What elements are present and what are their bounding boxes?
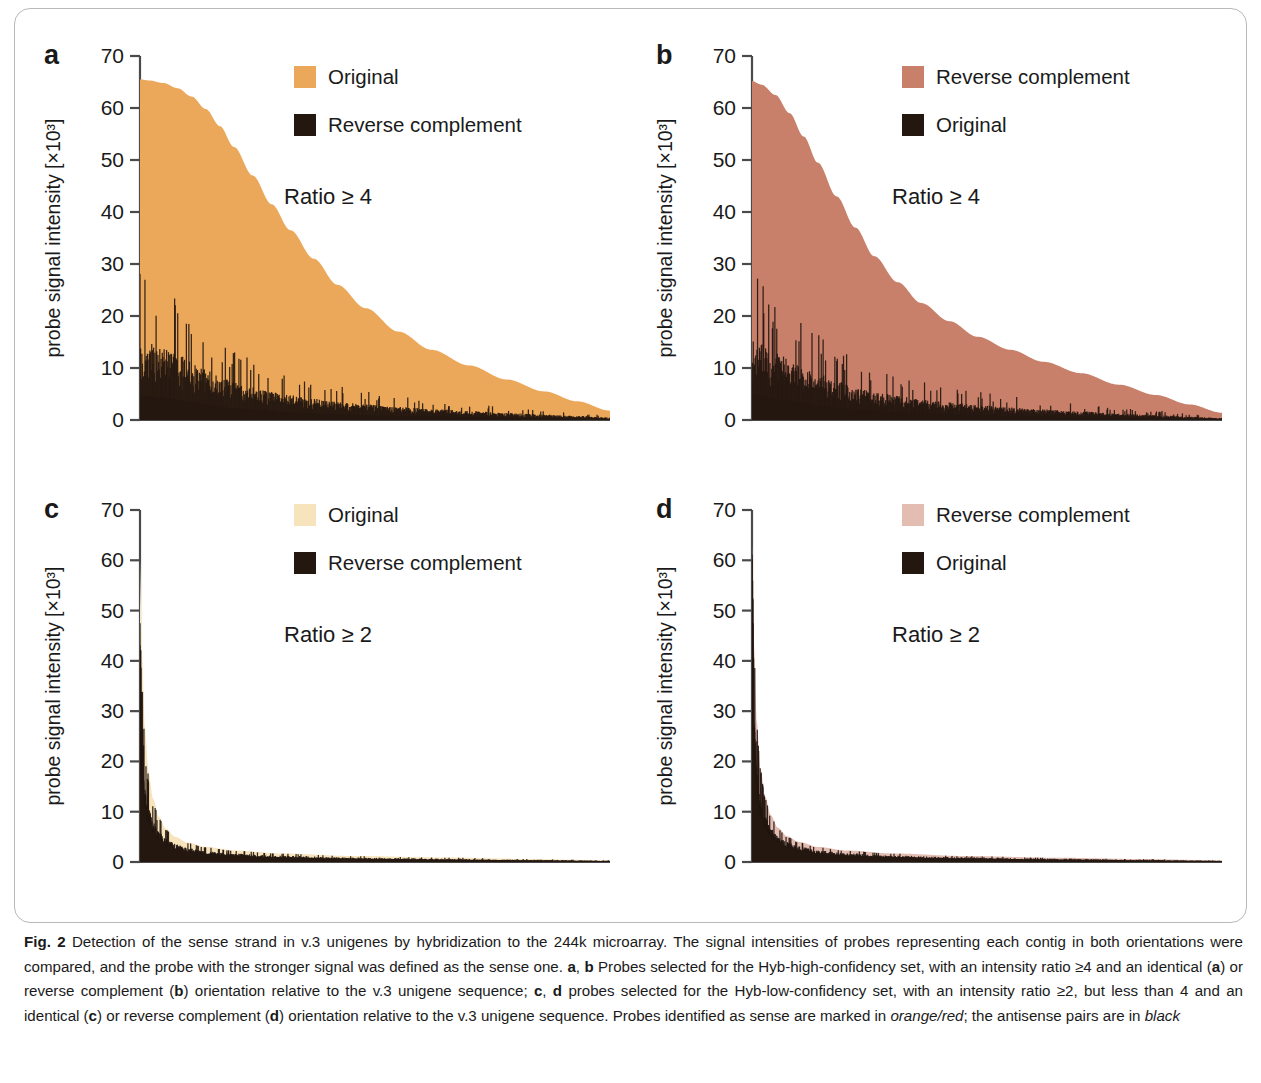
chart-b: bprobe signal intensity [×10³]0102030405… [634,16,1250,478]
y-tick-label-b-1: 10 [713,356,736,379]
chart-a: aprobe signal intensity [×10³]0102030405… [22,16,638,478]
legend-label-d-1: Original [936,551,1007,574]
y-tick-label-b-7: 70 [713,44,736,67]
legend-label-a-0: Original [328,65,399,88]
legend-swatch-d-0 [902,504,924,526]
ratio-annotation-c: Ratio ≥ 2 [284,622,372,647]
caption-segment: black [1145,1007,1180,1024]
y-tick-label-a-3: 30 [101,252,124,275]
panel-c: cprobe signal intensity [×10³]0102030405… [22,470,638,920]
plot-area-d [752,545,1222,862]
caption-segment: ) orientation relative to the v.3 unigen… [279,1007,890,1024]
ratio-annotation-a: Ratio ≥ 4 [284,184,372,209]
panel-letter-a: a [44,40,60,70]
y-axis-label-d: probe signal intensity [×10³] [654,566,676,805]
y-tick-label-a-7: 70 [101,44,124,67]
legend-label-a-1: Reverse complement [328,113,522,136]
caption-segment: d [270,1007,279,1024]
caption-segment: a [1212,958,1220,975]
series-sense-d [752,545,1222,862]
panel-a: aprobe signal intensity [×10³]0102030405… [22,16,638,478]
y-tick-label-b-4: 40 [713,200,736,223]
legend-swatch-d-1 [902,552,924,574]
y-tick-label-b-3: 30 [713,252,736,275]
y-axis-label-c: probe signal intensity [×10³] [42,566,64,805]
panel-letter-d: d [656,494,673,524]
y-tick-label-d-4: 40 [713,649,736,672]
legend-label-c-0: Original [328,503,399,526]
caption-segment: a [567,958,575,975]
y-tick-label-c-6: 60 [101,548,124,571]
y-tick-label-d-3: 30 [713,699,736,722]
y-tick-label-c-4: 40 [101,649,124,672]
series-sense-c [140,560,610,862]
legend-a: OriginalReverse complement [294,65,522,136]
legend-c: OriginalReverse complement [294,503,522,574]
antisense-base-c [140,761,610,862]
legend-d: Reverse complementOriginal [902,503,1130,574]
y-tick-label-a-6: 60 [101,96,124,119]
y-tick-label-c-3: 30 [101,699,124,722]
y-tick-label-b-0: 0 [724,408,736,431]
ratio-annotation-b: Ratio ≥ 4 [892,184,980,209]
panel-d: dprobe signal intensity [×10³]0102030405… [634,470,1250,920]
chart-c: cprobe signal intensity [×10³]0102030405… [22,470,638,920]
y-tick-label-d-0: 0 [724,850,736,873]
y-tick-label-c-5: 50 [101,599,124,622]
panel-grid: aprobe signal intensity [×10³]0102030405… [14,8,1247,923]
legend-label-d-0: Reverse complement [936,503,1130,526]
legend-swatch-a-1 [294,114,316,136]
antisense-base-d [752,714,1222,862]
caption-segment: orange/red [890,1007,963,1024]
legend-swatch-c-0 [294,504,316,526]
legend-label-b-1: Original [936,113,1007,136]
caption-segment: ; the antisense pairs are in [963,1007,1144,1024]
caption-segment: ) or reverse complement ( [97,1007,270,1024]
y-tick-label-c-7: 70 [101,498,124,521]
y-tick-label-a-2: 20 [101,304,124,327]
legend-b: Reverse complementOriginal [902,65,1130,136]
series-antisense-c [140,623,610,862]
caption-segment: Fig. 2 [24,933,66,950]
y-tick-label-b-6: 60 [713,96,736,119]
y-tick-label-a-1: 10 [101,356,124,379]
y-tick-label-c-0: 0 [112,850,124,873]
caption-segment: , [542,982,553,999]
legend-swatch-b-1 [902,114,924,136]
figure-caption: Fig. 2 Detection of the sense strand in … [24,930,1243,1028]
y-tick-label-d-7: 70 [713,498,736,521]
legend-swatch-a-0 [294,66,316,88]
legend-swatch-c-1 [294,552,316,574]
y-axis-label-b: probe signal intensity [×10³] [654,118,676,357]
caption-segment: c [89,1007,97,1024]
legend-label-b-0: Reverse complement [936,65,1130,88]
chart-d: dprobe signal intensity [×10³]0102030405… [634,470,1250,920]
panel-letter-c: c [44,494,59,524]
y-tick-label-a-0: 0 [112,408,124,431]
y-tick-label-a-4: 40 [101,200,124,223]
y-tick-label-d-1: 10 [713,800,736,823]
panel-b: bprobe signal intensity [×10³]0102030405… [634,16,1250,478]
caption-segment: Probes selected for the Hyb-high-confide… [594,958,1212,975]
legend-label-c-1: Reverse complement [328,551,522,574]
plot-area-c [140,560,610,862]
panel-letter-b: b [656,40,673,70]
y-tick-label-b-5: 50 [713,148,736,171]
legend-swatch-b-0 [902,66,924,88]
y-tick-label-c-2: 20 [101,749,124,772]
y-axis-label-a: probe signal intensity [×10³] [42,118,64,357]
caption-segment: b [584,958,593,975]
y-tick-label-d-6: 60 [713,548,736,571]
series-antisense-d [752,555,1222,863]
y-tick-label-d-2: 20 [713,749,736,772]
y-tick-label-b-2: 20 [713,304,736,327]
y-tick-label-a-5: 50 [101,148,124,171]
caption-segment: ) orientation relative to the v.3 unigen… [183,982,534,999]
y-tick-label-c-1: 10 [101,800,124,823]
y-tick-label-d-5: 50 [713,599,736,622]
ratio-annotation-d: Ratio ≥ 2 [892,622,980,647]
figure-page: aprobe signal intensity [×10³]0102030405… [0,0,1261,1083]
caption-segment: d [553,982,562,999]
